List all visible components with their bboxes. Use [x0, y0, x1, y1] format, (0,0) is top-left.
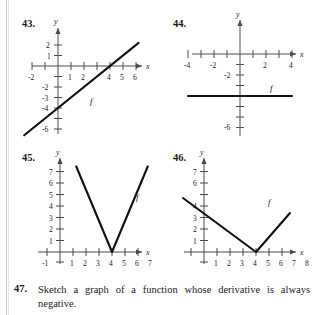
y-tick-label-5: 5	[49, 191, 53, 200]
y-axis-arrowhead	[55, 28, 60, 34]
y-tick-label-2: 2	[49, 225, 53, 234]
x-tick-label-4: 4	[109, 259, 113, 268]
y-tick-label-1: 1	[193, 237, 197, 246]
x-tick-label-4: 4	[289, 61, 293, 70]
exercise-46-graph: x y 1 2 3 4 5 6 7 8 7 6 4 3 2 1 f	[178, 148, 312, 268]
exercise-43-panel: 43. x y -2	[0, 0, 160, 140]
exercise-47-text: Sketch a graph of a function whose deriv…	[38, 283, 310, 310]
x-tick-label-5: 5	[122, 259, 126, 268]
y-tick-label-neg2: -2	[42, 83, 49, 92]
x-tick-label-7: 7	[292, 259, 296, 268]
x-tick-label-1: 1	[70, 259, 74, 268]
y-tick-label-3: 3	[49, 214, 53, 223]
y-tick-label-2: 2	[193, 225, 197, 234]
y-tick-label-3: 3	[193, 214, 197, 223]
exercise-46-panel: 46. x y 1 2 3 4	[160, 140, 319, 270]
function-label-f: f	[268, 197, 272, 207]
exercise-47-block: 47. Sketch a graph of a function whose d…	[14, 283, 310, 310]
exercise-43-graph: x y -2 1 2 4 5 6 2 1 -2 -3 -4 -6 f	[24, 14, 154, 139]
y-tick-label-4: 4	[49, 202, 53, 211]
x-tick-label-5: 5	[266, 259, 270, 268]
x-tick-label-2: 2	[83, 259, 87, 268]
x-axis-arrowhead	[136, 249, 142, 254]
y-axis-title: y	[199, 148, 204, 157]
y-axis-arrowhead	[201, 158, 206, 164]
exercise-44-panel: 44. x y -4 -2 2 4 -2	[160, 0, 319, 140]
x-axis-title: x	[299, 248, 304, 257]
x-axis-title: x	[145, 248, 150, 257]
x-axis-arrowhead	[136, 63, 142, 68]
x-axis-title: x	[299, 50, 304, 59]
x-tick-label-neg1: -1	[42, 259, 49, 268]
x-tick-label-6: 6	[279, 259, 283, 268]
y-axis-arrowhead	[237, 20, 242, 26]
y-tick-label-1: 1	[49, 237, 53, 246]
y-axis-title: y	[55, 148, 60, 157]
exercise-44-graph: x y -4 -2 2 4 -2 -6 f	[178, 14, 310, 139]
y-tick-label-6: 6	[49, 179, 53, 188]
x-tick-label-2: 2	[263, 61, 267, 70]
y-tick-label-neg3: -3	[42, 94, 49, 103]
y-tick-label-6: 6	[193, 179, 197, 188]
x-tick-label-3: 3	[96, 259, 100, 268]
x-tick-label-2: 2	[227, 259, 231, 268]
x-tick-label-neg4: -4	[184, 61, 191, 70]
x-tick-label-1: 1	[214, 259, 218, 268]
y-tick-label-7: 7	[49, 168, 53, 177]
y-axis-title: y	[235, 10, 240, 19]
x-tick-label-8: 8	[305, 259, 309, 268]
x-tick-label-6: 6	[135, 259, 139, 268]
function-label-f: f	[90, 96, 94, 106]
x-axis-arrowhead	[290, 51, 296, 56]
y-tick-label-7: 7	[193, 168, 197, 177]
exercise-47-number: 47.	[14, 283, 27, 294]
function-parabola	[76, 167, 148, 253]
x-axis-arrowhead	[290, 249, 296, 254]
exercise-45-panel: 45. x y -1 1 2 3	[0, 140, 160, 270]
x-tick-label-2: 2	[81, 73, 85, 82]
y-tick-label-neg4: -4	[42, 104, 49, 113]
function-label-f: f	[270, 83, 274, 93]
x-tick-label-4: 4	[107, 73, 111, 82]
x-tick-label-3: 3	[240, 259, 244, 268]
y-axis-arrowhead	[57, 158, 62, 164]
x-tick-label-1: 1	[68, 73, 72, 82]
x-axis-title: x	[145, 62, 150, 71]
x-tick-label-neg2: -2	[28, 73, 35, 82]
x-tick-label-6: 6	[133, 73, 137, 82]
exercise-45-graph: x y -1 1 2 3 4 5 6 7 7 6 5 4 3 2 1 f	[24, 148, 156, 268]
x-tick-label-4: 4	[253, 259, 257, 268]
y-tick-label-neg6: -6	[224, 123, 231, 132]
function-label-f: f	[136, 192, 140, 202]
x-tick-label-5: 5	[120, 73, 124, 82]
y-tick-label-2: 2	[46, 41, 50, 50]
function-vshape	[183, 198, 290, 252]
x-tick-label-7: 7	[148, 259, 152, 268]
y-tick-label-neg2: -2	[224, 71, 231, 80]
y-tick-label-neg6: -6	[42, 125, 49, 134]
y-tick-label-1: 1	[47, 52, 51, 61]
x-tick-label-neg2: -2	[210, 61, 217, 70]
y-axis-title: y	[53, 17, 58, 26]
